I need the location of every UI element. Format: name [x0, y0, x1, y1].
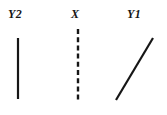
label-y2: Y2: [8, 8, 22, 20]
line-segments-group: [0, 0, 167, 115]
figure-canvas: Y2 X Y1: [0, 0, 167, 115]
diagonal-solid-line-y1: [116, 38, 153, 100]
label-y1: Y1: [127, 8, 141, 20]
label-x: X: [71, 8, 79, 20]
